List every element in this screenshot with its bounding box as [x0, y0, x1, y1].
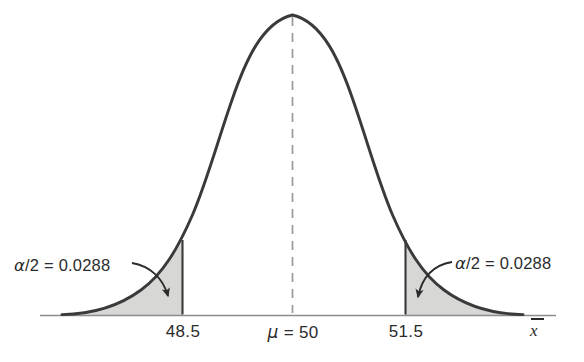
right-alpha-symbol: α — [455, 254, 466, 273]
left-tail-shaded-area — [62, 240, 182, 315]
normal-distribution-figure — [0, 0, 584, 362]
overbar-decoration — [531, 318, 544, 320]
left-alpha-value: /2 = 0.0288 — [25, 256, 110, 274]
right-alpha-value: /2 = 0.0288 — [466, 254, 551, 272]
x-axis-label-text: x — [530, 321, 538, 340]
left-alpha-annotation: α/2 = 0.0288 — [14, 256, 110, 275]
mean-value: = 50 — [279, 323, 319, 342]
mean-label: μ = 50 — [268, 322, 319, 343]
tick-label-lower-critical: 48.5 — [166, 322, 200, 342]
tick-label-upper-critical: 51.5 — [389, 322, 423, 342]
mu-symbol: μ — [268, 322, 279, 342]
left-alpha-symbol: α — [14, 256, 25, 275]
right-alpha-annotation: α/2 = 0.0288 — [455, 254, 551, 273]
x-axis-label: x — [530, 318, 544, 341]
